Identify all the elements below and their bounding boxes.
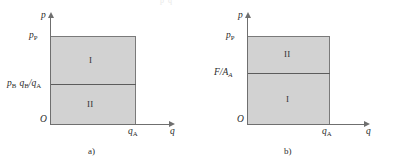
y-axis-a xyxy=(50,18,51,124)
region-tag-b-upper: II xyxy=(284,50,291,59)
y-tick-top-a-subscript: P xyxy=(34,34,38,41)
caption-b: b) xyxy=(284,147,292,156)
origin-label-b: O xyxy=(237,115,244,125)
plot-a-rect-outline xyxy=(50,36,136,124)
origin-label-a: O xyxy=(40,115,47,125)
y-axis-b xyxy=(247,18,248,124)
x-axis-label-a: q xyxy=(170,127,175,137)
divider-b xyxy=(247,73,330,74)
panel-b: p q O pP F/AA qA II I b) xyxy=(200,0,400,165)
panel-a: p q O pP pB qB/qA qA I II a) xyxy=(0,0,200,165)
y-axis-label-a: p xyxy=(41,11,46,21)
region-tag-a-lower: II xyxy=(87,100,94,109)
x-tick-b: qA xyxy=(322,127,332,137)
y-axis-label-b: p xyxy=(238,11,243,21)
x-tick-a: qA xyxy=(128,127,138,137)
divider-a xyxy=(50,84,136,85)
x-axis-a xyxy=(50,124,170,125)
y-tick-mid-b: F/AA xyxy=(214,68,232,78)
x-axis-label-b: q xyxy=(366,127,371,137)
region-tag-b-lower: I xyxy=(286,95,289,104)
figure-root: p q p q O pP pB qB/qA qA I II a) xyxy=(0,0,400,165)
y-tick-top-a: pP xyxy=(29,31,38,41)
y-tick-mid-a: pB qB/qA xyxy=(7,79,41,89)
x-axis-b xyxy=(247,124,365,125)
y-tick-top-b-subscript: P xyxy=(231,34,235,41)
y-axis-arrow-a xyxy=(48,12,54,18)
y-axis-arrow-b xyxy=(245,12,251,18)
caption-a: a) xyxy=(88,147,95,156)
y-tick-top-b: pP xyxy=(226,31,235,41)
region-tag-a-upper: I xyxy=(89,56,92,65)
